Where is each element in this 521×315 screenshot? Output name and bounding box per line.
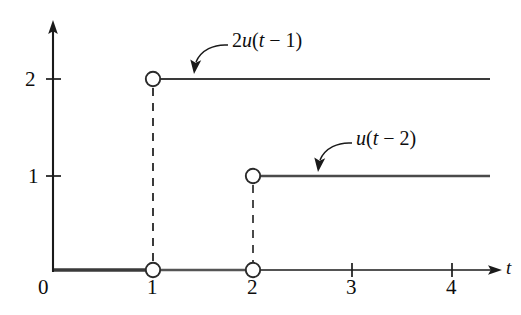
y-tick-label-1: 1 — [28, 166, 39, 187]
curve-label-2u-shift: 1 — [286, 29, 296, 51]
series-2u-t-minus-1 — [146, 72, 490, 277]
curve-label-u-open-paren: ( — [366, 127, 373, 149]
x-axis-label: t — [506, 258, 511, 277]
origin-label-0: 0 — [38, 277, 49, 298]
x-tick-label-3: 3 — [346, 277, 357, 298]
curve-label-2u-coefficient: 2 — [232, 29, 242, 51]
curve-label-u-shift: 2 — [400, 127, 410, 149]
curve-label-2u-function: u — [242, 29, 252, 51]
x-tick-label-2: 2 — [247, 277, 258, 298]
curve-label-u: u(t − 2) — [356, 128, 416, 148]
step-function-figure: 2 1 0 1 2 3 4 t 2u(t − 1) u(t − 2) — [0, 0, 521, 315]
series-u-t-minus-2 — [246, 169, 490, 277]
curve-label-2u-close-paren: ) — [296, 29, 303, 51]
y-tick-label-2: 2 — [25, 69, 36, 90]
y-axis — [48, 20, 58, 272]
leader-arrow-2u — [190, 45, 228, 74]
x-tick-label-4: 4 — [446, 277, 457, 298]
curve-label-u-function: u — [356, 127, 366, 149]
curve-label-u-minus: − — [378, 127, 399, 149]
curve-label-2u: 2u(t − 1) — [232, 30, 302, 50]
curve-label-2u-minus: − — [264, 29, 285, 51]
curve-label-2u-open-paren: ( — [252, 29, 259, 51]
x-tick-label-1: 1 — [147, 277, 158, 298]
curve-label-u-close-paren: ) — [410, 127, 417, 149]
leader-arrow-u — [314, 143, 352, 172]
